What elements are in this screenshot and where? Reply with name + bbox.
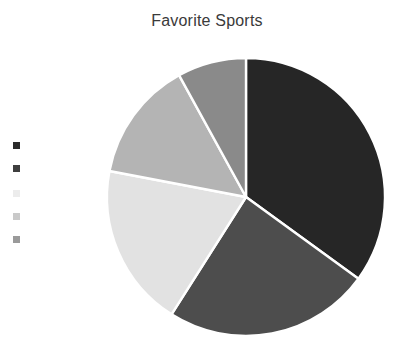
legend-item[interactable]: Series 5 — [10, 236, 36, 244]
legend-item[interactable]: Series 2 — [10, 165, 36, 173]
square-marker-icon — [13, 142, 20, 149]
pie-chart-canvas — [0, 0, 414, 357]
square-marker-icon — [13, 190, 20, 197]
legend-item[interactable]: Series 4 — [10, 213, 36, 221]
pie-slice-group — [107, 58, 385, 336]
pie-chart-figure: Favorite Sports Series 1Series 2Series 3… — [0, 0, 414, 357]
legend-item[interactable]: Series 1 — [10, 142, 36, 150]
square-marker-icon — [13, 236, 20, 243]
square-marker-icon — [13, 165, 20, 172]
chart-legend: Series 1Series 2Series 3Series 4Series 5 — [10, 142, 36, 250]
square-marker-icon — [13, 213, 20, 220]
legend-item[interactable]: Series 3 — [10, 190, 36, 198]
